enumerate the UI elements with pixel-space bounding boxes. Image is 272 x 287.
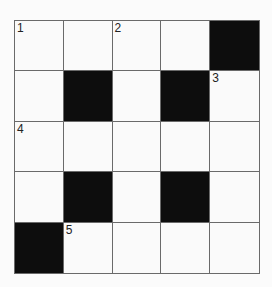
answer-cell[interactable]	[113, 122, 162, 172]
clue-number: 5	[66, 224, 73, 236]
answer-cell[interactable]	[161, 223, 210, 273]
clue-number: 2	[115, 22, 122, 34]
clue-number: 1	[17, 22, 24, 34]
answer-cell[interactable]	[161, 21, 210, 71]
answer-cell[interactable]	[161, 122, 210, 172]
answer-cell[interactable]	[113, 223, 162, 273]
block-cell	[15, 223, 64, 273]
answer-cell[interactable]: 4	[15, 122, 64, 172]
answer-cell[interactable]: 5	[64, 223, 113, 273]
clue-number: 3	[212, 72, 219, 84]
answer-cell[interactable]	[15, 71, 64, 121]
block-cell	[64, 71, 113, 121]
block-cell	[161, 71, 210, 121]
clue-number: 4	[17, 123, 24, 135]
block-cell	[210, 21, 259, 71]
block-cell	[161, 172, 210, 222]
block-cell	[64, 172, 113, 222]
answer-cell[interactable]: 3	[210, 71, 259, 121]
answer-cell[interactable]	[113, 172, 162, 222]
answer-cell[interactable]	[64, 122, 113, 172]
answer-cell[interactable]	[210, 172, 259, 222]
answer-cell[interactable]	[15, 172, 64, 222]
answer-cell[interactable]: 1	[15, 21, 64, 71]
answer-cell[interactable]: 2	[113, 21, 162, 71]
crossword-grid: 12345	[14, 20, 260, 274]
answer-cell[interactable]	[210, 122, 259, 172]
answer-cell[interactable]	[64, 21, 113, 71]
answer-cell[interactable]	[113, 71, 162, 121]
answer-cell[interactable]	[210, 223, 259, 273]
